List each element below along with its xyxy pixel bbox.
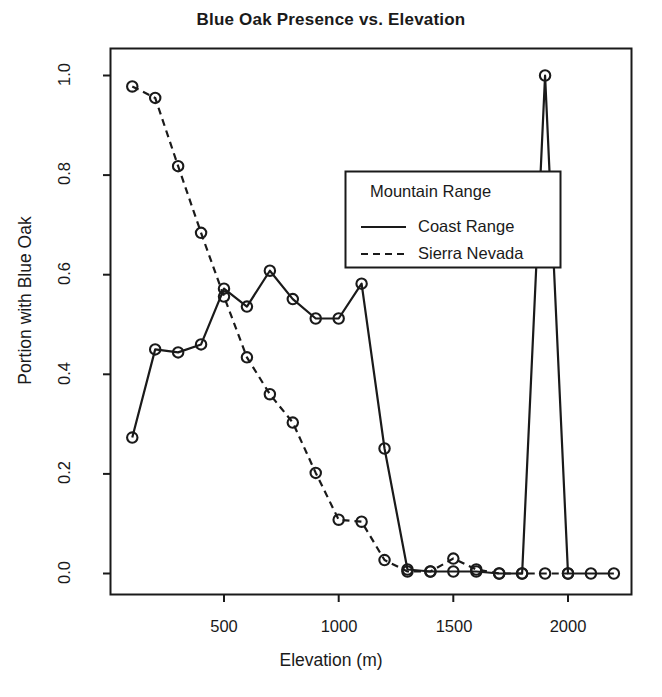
data-point [379, 555, 389, 565]
data-point [219, 291, 229, 301]
data-point [494, 568, 504, 578]
data-point [288, 294, 298, 304]
data-series-layer [127, 70, 619, 578]
data-point [402, 566, 412, 576]
data-point [311, 468, 321, 478]
legend-label-sierra-nevada: Sierra Nevada [418, 244, 523, 263]
data-point [265, 266, 275, 276]
data-point [425, 566, 435, 576]
data-point [333, 515, 343, 525]
data-point [563, 568, 573, 578]
legend-title: Mountain Range [370, 182, 491, 201]
y-axis-ticks [103, 76, 110, 574]
chart-figure: Blue Oak Presence vs. Elevation Portion … [0, 0, 662, 697]
data-point [242, 301, 252, 311]
series-sierra-nevada [127, 81, 573, 578]
series-line [132, 86, 568, 573]
data-point [196, 339, 206, 349]
data-point [517, 568, 527, 578]
data-point [609, 568, 619, 578]
data-point [196, 228, 206, 238]
data-point [288, 417, 298, 427]
data-point [311, 313, 321, 323]
data-point [448, 553, 458, 563]
data-point [173, 347, 183, 357]
data-point [379, 443, 389, 453]
data-point [586, 568, 596, 578]
data-point [150, 93, 160, 103]
data-point [540, 70, 550, 80]
data-point [127, 81, 137, 91]
data-point [448, 566, 458, 576]
series-line [132, 76, 614, 574]
series-coast-range [127, 70, 619, 578]
data-point [540, 568, 550, 578]
data-point [471, 564, 481, 574]
legend-label-coast-range: Coast Range [418, 217, 514, 236]
data-point [333, 313, 343, 323]
data-point [356, 278, 366, 288]
data-point [265, 389, 275, 399]
plot-area [0, 0, 662, 697]
data-point [150, 344, 160, 354]
data-point [242, 352, 252, 362]
data-point [127, 432, 137, 442]
data-point [356, 517, 366, 527]
plot-frame [111, 49, 632, 595]
data-point [173, 161, 183, 171]
